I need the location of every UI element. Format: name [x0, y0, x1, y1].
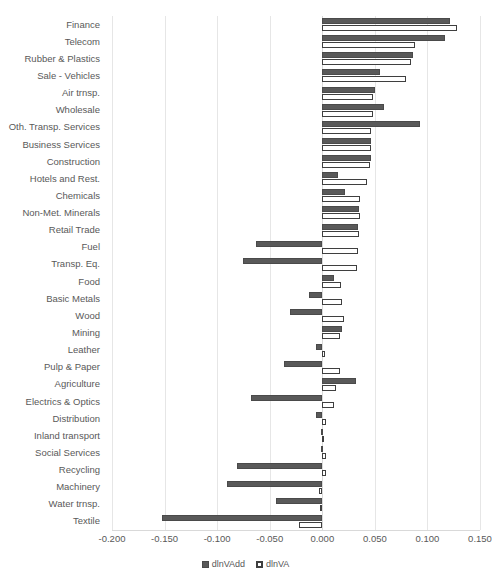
bar-dlnVAdd — [322, 326, 342, 332]
y-axis-label: Mining — [0, 326, 106, 340]
bar-group — [112, 273, 480, 290]
bar-dlnVA — [322, 42, 415, 48]
bar-dlnVA — [322, 402, 334, 408]
x-axis-tick-labels: -0.200-0.150-0.100-0.0500.0000.0500.1000… — [0, 533, 491, 549]
bar-dlnVA — [322, 282, 341, 288]
bar-dlnVA — [322, 94, 372, 100]
bar-dlnVAdd — [243, 258, 322, 264]
y-axis-label: Non-Met. Minerals — [0, 206, 106, 220]
bar-dlnVA — [322, 351, 325, 357]
y-axis-label: Social Services — [0, 446, 106, 460]
y-axis-label: Fuel — [0, 240, 106, 254]
bar-dlnVAdd — [322, 18, 449, 24]
y-axis-label: Retail Trade — [0, 223, 106, 237]
bar-dlnVAdd — [276, 498, 322, 504]
y-axis-label: Business Services — [0, 138, 106, 152]
legend-label: dlnVA — [266, 559, 289, 569]
y-axis-label: Oth. Transp. Services — [0, 120, 106, 134]
bar-dlnVA — [322, 316, 344, 322]
bar-dlnVAdd — [322, 69, 380, 75]
bar-dlnVAdd — [322, 172, 338, 178]
bar-group — [112, 16, 480, 33]
bar-group — [112, 256, 480, 273]
y-axis-label: Finance — [0, 18, 106, 32]
bar-group — [112, 136, 480, 153]
bar-dlnVAdd — [322, 52, 412, 58]
bar-dlnVA — [322, 470, 326, 476]
bar-group — [112, 222, 480, 239]
bar-dlnVA — [322, 368, 340, 374]
bar-dlnVA — [322, 76, 406, 82]
bar-dlnVA — [319, 488, 322, 494]
bar-group — [112, 427, 480, 444]
bar-dlnVA — [322, 453, 326, 459]
bar-group — [112, 119, 480, 136]
legend-item-dlnVA[interactable]: dlnVA — [256, 559, 289, 569]
x-axis-tick-label: 0.100 — [397, 533, 457, 544]
bar-dlnVAdd — [322, 275, 334, 281]
bar-group — [112, 324, 480, 341]
y-axis-label: Textile — [0, 514, 106, 528]
y-axis-label: Wood — [0, 309, 106, 323]
y-axis-label: Recycling — [0, 463, 106, 477]
bar-group — [112, 410, 480, 427]
bar-group — [112, 342, 480, 359]
x-axis-tick-label: 0.000 — [292, 533, 352, 544]
bar-dlnVAdd — [322, 378, 356, 384]
x-axis-tick-label: -0.200 — [82, 533, 142, 544]
x-axis-tick-label: 0.150 — [450, 533, 496, 544]
gridline-0-150 — [480, 16, 481, 530]
y-axis-category-labels: FinanceTelecomRubber & PlasticsSale - Ve… — [0, 16, 106, 530]
bar-dlnVAdd — [227, 481, 323, 487]
bar-group — [112, 444, 480, 461]
bar-dlnVA — [322, 419, 326, 425]
legend-label: dlnVAdd — [212, 559, 245, 569]
bar-dlnVAdd — [322, 206, 359, 212]
y-axis-label: Agriculture — [0, 377, 106, 391]
bar-group — [112, 33, 480, 50]
bar-dlnVA — [322, 333, 340, 339]
bar-dlnVA — [322, 111, 372, 117]
x-axis-tick-label: 0.050 — [345, 533, 405, 544]
y-axis-label: Machinery — [0, 480, 106, 494]
x-axis-tick-label: -0.150 — [135, 533, 195, 544]
legend-item-dlnVAdd[interactable]: dlnVAdd — [202, 559, 245, 569]
bar-dlnVA — [322, 128, 370, 134]
x-axis-line — [112, 530, 480, 531]
bar-group — [112, 359, 480, 376]
bar-group — [112, 290, 480, 307]
legend-swatch-icon — [256, 561, 263, 568]
legend-swatch-icon — [202, 561, 209, 568]
bar-group — [112, 187, 480, 204]
bar-dlnVAdd — [322, 104, 384, 110]
bar-group — [112, 67, 480, 84]
bar-group — [112, 479, 480, 496]
chart-legend: dlnVAdddlnVA — [0, 559, 491, 569]
bar-group — [112, 376, 480, 393]
y-axis-label: Water trnsp. — [0, 497, 106, 511]
bar-dlnVAdd — [322, 224, 358, 230]
bar-dlnVAdd — [162, 515, 322, 521]
bar-dlnVAdd — [290, 309, 323, 315]
bar-dlnVAdd — [322, 155, 370, 161]
bar-dlnVAdd — [256, 241, 322, 247]
y-axis-label: Rubber & Plastics — [0, 52, 106, 66]
bar-dlnVA — [322, 299, 342, 305]
bar-dlnVAdd — [322, 189, 345, 195]
bar-group — [112, 50, 480, 67]
bar-dlnVA — [322, 196, 360, 202]
bar-dlnVA — [322, 59, 410, 65]
bar-dlnVA — [322, 248, 358, 254]
bar-group — [112, 496, 480, 513]
bar-dlnVAdd — [316, 344, 322, 350]
bar-group — [112, 461, 480, 478]
bar-dlnVA — [322, 179, 367, 185]
y-axis-label: Sale - Vehicles — [0, 69, 106, 83]
bar-group — [112, 85, 480, 102]
bar-dlnVA — [299, 522, 322, 528]
y-axis-label: Chemicals — [0, 189, 106, 203]
bar-dlnVAdd — [322, 121, 420, 127]
y-axis-label: Hotels and Rest. — [0, 172, 106, 186]
bar-dlnVAdd — [309, 292, 323, 298]
